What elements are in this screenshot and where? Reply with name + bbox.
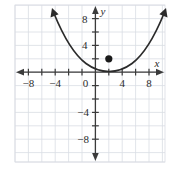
graph-screenshot: −8 −4 0 4 8 8 4 −4 −8 x y (0, 0, 177, 177)
y-tick-label-4: 4 (82, 39, 88, 51)
y-tick-label-neg4: −4 (77, 106, 89, 118)
marked-point[interactable] (105, 55, 112, 62)
coordinate-plane-graph: −8 −4 0 4 8 8 4 −4 −8 x y (0, 0, 177, 177)
x-axis-label: x (154, 57, 160, 69)
x-tick-label-neg4: −4 (49, 77, 61, 89)
y-axis-label: y (100, 5, 106, 17)
plot-background (15, 5, 165, 162)
x-tick-label-zero: 0 (83, 77, 89, 89)
y-tick-label-neg8: −8 (77, 133, 89, 145)
x-tick-label-8: 8 (146, 77, 152, 89)
x-tick-label-neg8: −8 (23, 77, 35, 89)
y-tick-label-8: 8 (82, 13, 88, 25)
x-tick-label-4: 4 (119, 77, 125, 89)
